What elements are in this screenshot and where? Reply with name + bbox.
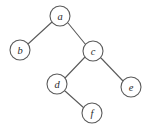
binary-tree-figure: abcdef — [0, 0, 150, 131]
tree-edge-a-c — [68, 23, 86, 45]
tree-node-c: c — [83, 41, 103, 61]
tree-node-b: b — [10, 40, 30, 60]
tree-node-a: a — [50, 6, 70, 26]
tree-diagram-canvas: abcdef — [0, 0, 150, 131]
tree-node-label-e: e — [129, 82, 134, 93]
tree-node-e: e — [121, 77, 141, 97]
tree-edge-a-b — [28, 22, 52, 44]
tree-node-label-a: a — [57, 11, 62, 22]
tree-node-f: f — [82, 103, 102, 123]
edge-layer — [28, 22, 123, 108]
tree-edge-d-f — [65, 91, 84, 108]
tree-node-d: d — [47, 74, 67, 94]
tree-node-label-d: d — [54, 79, 60, 90]
tree-node-label-b: b — [17, 45, 22, 56]
tree-edge-c-e — [101, 58, 123, 81]
tree-edge-c-d — [65, 57, 85, 78]
tree-node-label-c: c — [91, 46, 96, 57]
node-layer: abcdef — [10, 6, 141, 123]
